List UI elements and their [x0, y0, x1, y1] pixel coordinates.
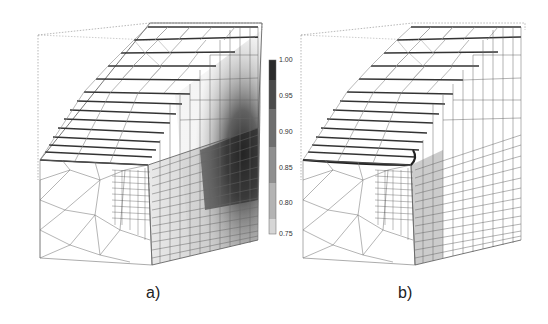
colorbar-tick-1-00: 1.00 — [279, 56, 293, 63]
colorbar-tick-0-75: 0.75 — [279, 230, 293, 237]
panel-a-mesh — [38, 23, 262, 265]
colorbar-tick-0-80: 0.80 — [279, 199, 293, 206]
colorbar-tick-0-95: 0.95 — [279, 92, 293, 99]
panel-b-mesh — [301, 23, 525, 265]
panel-label-b: b) — [398, 284, 412, 302]
colorbar-tick-0-85: 0.85 — [279, 164, 293, 171]
figure-canvas — [0, 0, 548, 324]
colorbar-tick-0-90: 0.90 — [279, 128, 293, 135]
colorbar — [269, 60, 276, 234]
panel-label-a: a) — [146, 284, 160, 302]
